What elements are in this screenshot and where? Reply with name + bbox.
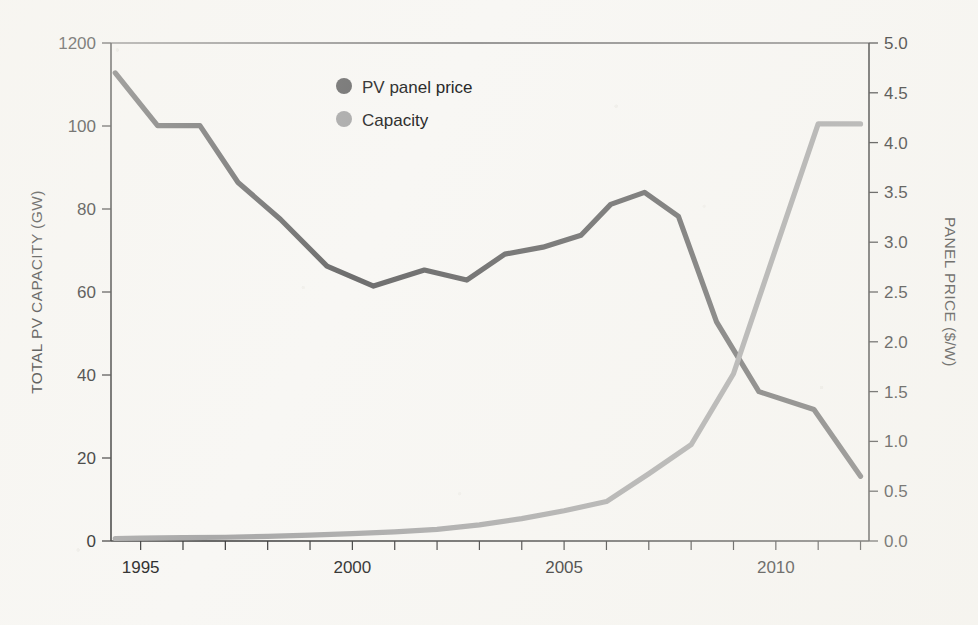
right-tick-label: 0.0 [884, 532, 908, 551]
x-axis-ticks: 1995200020052010 [122, 541, 861, 577]
left-tick-label: 0 [87, 532, 96, 551]
left-tick-label: 1200 [58, 34, 96, 53]
left-axis-title: TOTAL PV CAPACITY (GW) [28, 190, 45, 393]
right-tick-label: 4.5 [884, 84, 908, 103]
left-tick-label: 40 [77, 366, 96, 385]
right-tick-label: 2.0 [884, 333, 908, 352]
series-line-capacity [115, 124, 860, 539]
plot-frame [111, 43, 869, 541]
series-lines [115, 73, 860, 539]
legend-swatch-circle-icon [336, 111, 352, 127]
x-tick-label: 1995 [122, 558, 160, 577]
legend-label-capacity: Capacity [362, 111, 429, 130]
chart-canvas: 1200100806040200 5.04.54.03.53.02.52.01.… [0, 0, 978, 625]
right-tick-label: 3.0 [884, 233, 908, 252]
right-tick-label: 5.0 [884, 34, 908, 53]
right-tick-label: 4.0 [884, 134, 908, 153]
right-tick-label: 2.5 [884, 283, 908, 302]
right-tick-label: 1.0 [884, 432, 908, 451]
series-line-pv-panel-price [115, 73, 860, 476]
dual-axis-line-chart: 1200100806040200 5.04.54.03.53.02.52.01.… [0, 0, 978, 625]
x-tick-label: 2010 [757, 558, 795, 577]
x-tick-label: 2000 [333, 558, 371, 577]
left-tick-label: 20 [77, 449, 96, 468]
legend-item-capacity[interactable]: Capacity [336, 111, 429, 130]
legend-swatch-circle-icon [336, 78, 352, 94]
x-tick-label: 2005 [545, 558, 583, 577]
legend-label-pv-panel-price: PV panel price [362, 78, 473, 97]
left-tick-label: 100 [68, 117, 96, 136]
right-tick-label: 3.5 [884, 183, 908, 202]
left-axis-ticks: 1200100806040200 [58, 34, 111, 551]
left-tick-label: 80 [77, 200, 96, 219]
right-axis-ticks: 5.04.54.03.53.02.52.01.51.00.50.0 [869, 34, 908, 551]
right-axis-title: PANEL PRICE ($/W) [942, 217, 959, 367]
right-tick-label: 1.5 [884, 383, 908, 402]
legend-item-pv-panel-price[interactable]: PV panel price [336, 78, 473, 97]
right-tick-label: 0.5 [884, 482, 908, 501]
left-tick-label: 60 [77, 283, 96, 302]
chart-legend: PV panel price Capacity [336, 78, 473, 130]
